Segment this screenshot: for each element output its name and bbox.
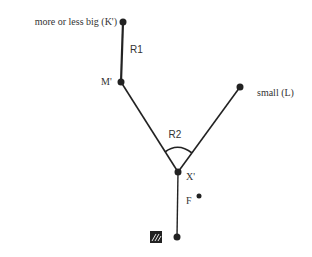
diagram-canvas: more or less big (K') R1 M' small (L) R2… <box>0 0 312 257</box>
angle-arc-r2 <box>165 147 192 153</box>
edge-m-x <box>121 82 178 172</box>
node-f <box>197 194 202 199</box>
edge-k-m <box>121 22 123 82</box>
label-x: X' <box>186 171 195 182</box>
edge-x-bottom <box>177 172 178 237</box>
label-r2: R2 <box>169 129 182 140</box>
label-m: M' <box>101 76 112 87</box>
node-m <box>118 79 125 86</box>
node-bottom <box>174 234 181 241</box>
label-k: more or less big (K') <box>35 16 117 28</box>
edge-l-x <box>178 87 240 172</box>
label-l: small (L) <box>257 87 294 99</box>
label-r1: R1 <box>130 44 143 55</box>
node-k <box>120 19 127 26</box>
node-l <box>237 84 244 91</box>
hatched-square-icon <box>150 231 162 243</box>
label-f: F <box>186 195 192 206</box>
node-x <box>175 169 182 176</box>
